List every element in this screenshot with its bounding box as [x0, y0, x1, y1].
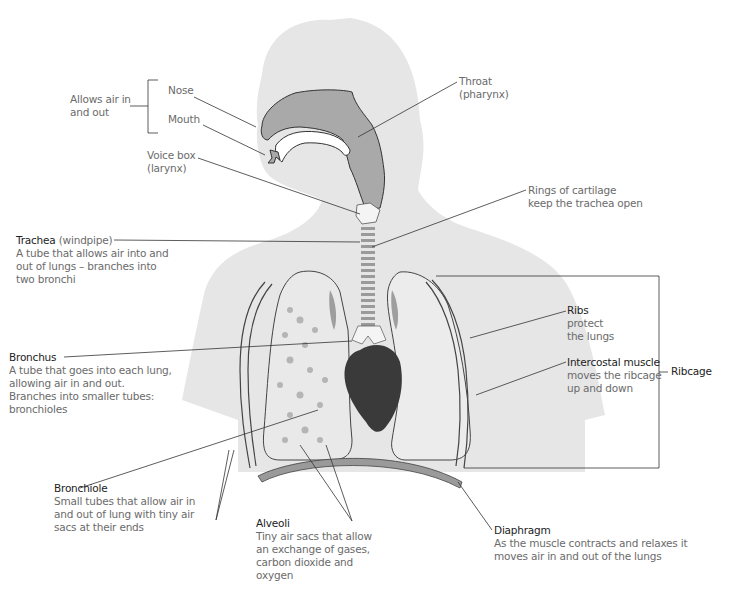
throat-line2: (pharynx)	[459, 88, 509, 101]
trachea-title: Trachea	[16, 234, 56, 246]
ribs-title: Ribs	[567, 304, 614, 317]
trachea-subtitle: (windpipe)	[56, 234, 113, 246]
bronchiole-title: Bronchiole	[54, 482, 195, 495]
bronchus-desc-2: allowing air in and out.	[9, 377, 172, 390]
bronchiole-desc-2: and out of lung with tiny air	[54, 508, 195, 521]
label-trachea: Trachea (windpipe) A tube that allows ai…	[16, 234, 169, 286]
allows-air-line1: Allows air in	[70, 93, 131, 106]
allows-air-line2: and out	[70, 106, 131, 119]
rings-line2: keep the trachea open	[528, 197, 643, 210]
ribs-desc-1: protect	[567, 317, 614, 330]
trachea-desc-1: A tube that allows air into and	[16, 247, 169, 260]
bronchus-desc-4: bronchioles	[9, 403, 172, 416]
label-intercostal-muscle: Intercostal muscle moves the ribcage up …	[567, 356, 662, 395]
intercostal-desc-2: up and down	[567, 382, 662, 395]
label-rings-of-cartilage: Rings of cartilage keep the trachea open	[528, 184, 643, 210]
mouth-title: Mouth	[168, 113, 200, 126]
ribcage-title: Ribcage	[671, 365, 712, 378]
label-mouth: Mouth	[168, 113, 200, 126]
trachea-desc-2: out of lungs – branches into	[16, 260, 169, 273]
intercostal-desc-1: moves the ribcage	[567, 369, 662, 382]
alveoli-title: Alveoli	[256, 517, 372, 530]
diaphragm-desc-2: moves air in and out of the lungs	[494, 550, 687, 563]
label-diaphragm: Diaphragm As the muscle contracts and re…	[494, 524, 687, 563]
ribs-desc-2: the lungs	[567, 330, 614, 343]
label-bronchiole: Bronchiole Small tubes that allow air in…	[54, 482, 195, 534]
label-alveoli: Alveoli Tiny air sacs that allow an exch…	[256, 517, 372, 582]
label-voice-box: Voice box (larynx)	[147, 149, 195, 175]
throat-line1: Throat	[459, 75, 509, 88]
intercostal-title: Intercostal muscle	[567, 356, 662, 369]
label-ribcage: Ribcage	[671, 365, 712, 378]
voice-box-line2: (larynx)	[147, 162, 195, 175]
nose-title: Nose	[168, 84, 193, 97]
label-allows-air: Allows air in and out	[70, 93, 131, 119]
bronchiole-desc-3: sacs at their ends	[54, 521, 195, 534]
bronchus-title: Bronchus	[9, 351, 172, 364]
diaphragm-desc-1: As the muscle contracts and relaxes it	[494, 537, 687, 550]
voice-box-line1: Voice box	[147, 149, 195, 162]
alveoli-desc-2: an exchange of gases,	[256, 543, 372, 556]
trachea-rings	[361, 227, 375, 326]
alveoli-desc-4: oxygen	[256, 569, 372, 582]
alveoli-desc-3: carbon dioxide and	[256, 556, 372, 569]
bronchus-desc-1: A tube that goes into each lung,	[9, 364, 172, 377]
alveoli-desc-1: Tiny air sacs that allow	[256, 530, 372, 543]
label-ribs: Ribs protect the lungs	[567, 304, 614, 343]
trachea-desc-3: two bronchi	[16, 273, 169, 286]
label-throat: Throat (pharynx)	[459, 75, 509, 101]
label-nose: Nose	[168, 84, 193, 97]
rings-line1: Rings of cartilage	[528, 184, 643, 197]
diaphragm-title: Diaphragm	[494, 524, 687, 537]
bronchiole-desc-1: Small tubes that allow air in	[54, 495, 195, 508]
bronchus-desc-3: Branches into smaller tubes:	[9, 390, 172, 403]
label-bronchus: Bronchus A tube that goes into each lung…	[9, 351, 172, 416]
